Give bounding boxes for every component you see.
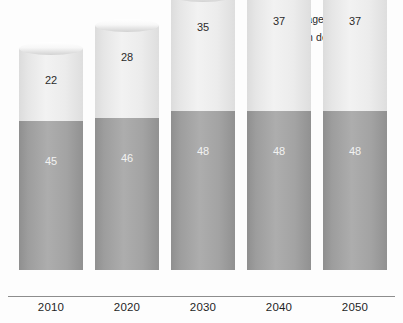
x-axis-line — [8, 296, 395, 297]
cylinder-top-ellipse-icon — [19, 42, 83, 55]
bar-value-old-age-2010: 22 — [19, 74, 83, 86]
bar-segment-youth-2010: 45 — [19, 121, 83, 270]
bar-segment-youth-2040: 48 — [247, 111, 311, 270]
bar-segment-old-age-2030: 35 — [171, 0, 235, 111]
bar-value-youth-2020: 46 — [95, 152, 159, 164]
x-tick-label-2020: 2020 — [95, 301, 159, 313]
bar-segment-youth-2030: 48 — [171, 111, 235, 270]
bar-stack-2010: 22 45 — [19, 48, 83, 270]
bar-value-youth-2010: 45 — [19, 155, 83, 167]
bar-value-youth-2050: 48 — [323, 145, 387, 157]
dependency-ratio-chart: Old-age dependency Youth dependency 67 2… — [0, 0, 403, 323]
bar-value-youth-2030: 48 — [171, 145, 235, 157]
bar-segment-old-age-2010: 22 — [19, 48, 83, 121]
bar-stack-2040: 37 48 — [247, 0, 311, 270]
bar-value-old-age-2020: 28 — [95, 51, 159, 63]
x-tick-label-2050: 2050 — [323, 301, 387, 313]
bar-stack-2030: 35 48 — [171, 0, 235, 270]
bar-segment-youth-2020: 46 — [95, 118, 159, 270]
cylinder-top-ellipse-icon — [171, 0, 235, 2]
cylinder-top-ellipse-icon — [95, 19, 159, 32]
bar-stack-2050: 37 48 — [323, 0, 387, 270]
x-tick-label-2040: 2040 — [247, 301, 311, 313]
bar-value-old-age-2030: 35 — [171, 21, 235, 33]
bar-stack-2020: 28 46 — [95, 25, 159, 270]
bar-segment-youth-2050: 48 — [323, 111, 387, 270]
bar-value-old-age-2040: 37 — [247, 15, 311, 27]
plot-area: 67 22 45 74 28 — [0, 0, 403, 297]
bar-segment-old-age-2020: 28 — [95, 25, 159, 118]
bar-segment-old-age-2050: 37 — [323, 0, 387, 111]
bar-segment-old-age-2040: 37 — [247, 0, 311, 111]
x-tick-label-2010: 2010 — [19, 301, 83, 313]
bar-value-youth-2040: 48 — [247, 145, 311, 157]
bar-value-old-age-2050: 37 — [323, 15, 387, 27]
x-tick-label-2030: 2030 — [171, 301, 235, 313]
